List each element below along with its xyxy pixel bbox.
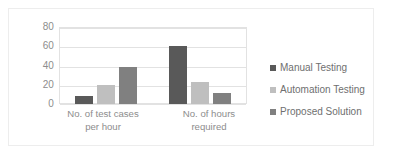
y-tick-label-20: 20	[23, 79, 54, 90]
gridline-80	[60, 28, 246, 29]
y-tick-label-60: 60	[23, 40, 54, 51]
x-category-label-0: No. of test cases per hour	[47, 108, 159, 133]
legend-label-manual-testing: Manual Testing	[280, 62, 347, 74]
chart-figure: 80 60 40 20 0 No. of test cases per hour…	[0, 0, 396, 158]
chart-frame: 80 60 40 20 0 No. of test cases per hour…	[8, 8, 374, 146]
x-category-label-1-line-1: required	[159, 121, 259, 134]
x-category-label-0-line-0: No. of test cases	[47, 108, 159, 121]
gridline-0	[60, 104, 246, 105]
gridline-60	[60, 47, 246, 48]
legend-label-proposed-solution: Proposed Solution	[280, 106, 362, 118]
x-category-label-1-line-0: No. of hours	[159, 108, 259, 121]
legend-item-automation-testing: Automation Testing	[270, 81, 382, 98]
gridline-40	[60, 67, 246, 68]
x-category-label-0-line-1: per hour	[47, 121, 159, 134]
chart-legend: Manual Testing Automation Testing Propos…	[270, 59, 382, 125]
plot-area	[59, 27, 247, 104]
x-category-label-1: No. of hours required	[159, 108, 259, 133]
legend-swatch-proposed-solution	[270, 109, 276, 115]
y-axis: 80 60 40 20 0	[23, 21, 54, 110]
y-tick-label-80: 80	[23, 21, 54, 32]
gridline-20	[60, 86, 246, 87]
y-tick-label-40: 40	[23, 60, 54, 71]
legend-swatch-manual-testing	[270, 65, 276, 71]
legend-item-manual-testing: Manual Testing	[270, 59, 382, 76]
legend-label-automation-testing: Automation Testing	[280, 84, 365, 96]
legend-swatch-automation-testing	[270, 87, 276, 93]
legend-item-proposed-solution: Proposed Solution	[270, 103, 382, 120]
